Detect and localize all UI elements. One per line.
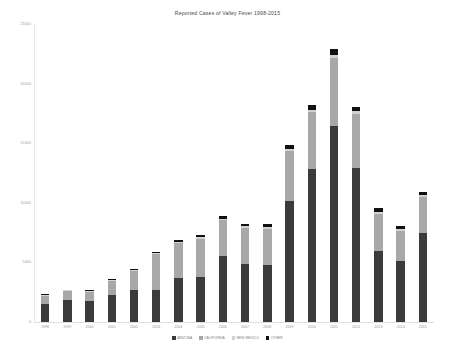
bar-segment[interactable] xyxy=(352,114,361,168)
bar-stack[interactable] xyxy=(196,235,205,322)
x-axis-ticks: 1998199920002001200220032004200520062007… xyxy=(34,323,434,335)
x-axis-tick-label: 2014 xyxy=(397,325,405,329)
bar-stack[interactable] xyxy=(308,105,317,322)
x-axis-tick-label: 2009 xyxy=(286,325,294,329)
legend-item-label: OTHER xyxy=(271,336,283,340)
bar-segment[interactable] xyxy=(152,290,161,322)
legend-swatch-icon xyxy=(199,336,202,339)
y-axis-tick-label: 5000 xyxy=(23,260,34,264)
y-axis-tick-label: 10000 xyxy=(21,201,35,205)
x-axis-tick-label: 2013 xyxy=(374,325,382,329)
bar-segment[interactable] xyxy=(108,281,117,295)
bar-stack[interactable] xyxy=(330,49,339,322)
x-axis-tick-label: 2008 xyxy=(263,325,271,329)
x-axis-tick-label: 2001 xyxy=(108,325,116,329)
x-axis-tick-label: 2010 xyxy=(308,325,316,329)
bar-stack[interactable] xyxy=(174,240,183,322)
bar-segment[interactable] xyxy=(196,277,205,323)
x-axis-tick-label: 2005 xyxy=(197,325,205,329)
bar-stack[interactable] xyxy=(108,279,117,322)
legend-item[interactable]: ARIZONA xyxy=(172,336,192,340)
bar-stack[interactable] xyxy=(396,226,405,322)
chart-title: Reported Cases of Valley Fever 1998-2015 xyxy=(0,10,455,16)
bar-segment[interactable] xyxy=(241,264,250,322)
chart-container: Reported Cases of Valley Fever 1998-2015… xyxy=(0,0,455,352)
bar-stack[interactable] xyxy=(41,294,50,322)
bar-stack[interactable] xyxy=(241,224,250,322)
bar-segment[interactable] xyxy=(352,168,361,322)
x-axis-tick-label: 1998 xyxy=(41,325,49,329)
bar-segment[interactable] xyxy=(396,231,405,261)
bar-segment[interactable] xyxy=(308,169,317,322)
legend-item[interactable]: OTHER xyxy=(266,336,283,340)
bar-segment[interactable] xyxy=(285,151,294,200)
legend-item-label: CALIFORNIA xyxy=(204,336,225,340)
bar-stack[interactable] xyxy=(130,269,139,322)
y-axis-tick-label: 25000 xyxy=(21,22,35,26)
bar-segment[interactable] xyxy=(130,290,139,322)
legend-item[interactable]: NEW MEXICO xyxy=(232,336,259,340)
x-axis-tick-label: 2015 xyxy=(419,325,427,329)
y-axis-tick-label: 15000 xyxy=(21,141,35,145)
bar-segment[interactable] xyxy=(396,261,405,322)
bar-segment[interactable] xyxy=(85,301,94,322)
bar-segment[interactable] xyxy=(330,126,339,322)
x-axis-tick-label: 2006 xyxy=(219,325,227,329)
bar-stack[interactable] xyxy=(85,290,94,322)
bar-stack[interactable] xyxy=(63,290,72,322)
x-axis-tick-label: 2000 xyxy=(86,325,94,329)
chart-legend: ARIZONACALIFORNIANEW MEXICOOTHER xyxy=(0,336,455,340)
legend-swatch-icon xyxy=(172,336,175,339)
bar-segment[interactable] xyxy=(285,201,294,322)
x-axis-tick-label: 2002 xyxy=(130,325,138,329)
bar-stack[interactable] xyxy=(263,224,272,322)
bar-stack[interactable] xyxy=(352,107,361,323)
bar-segment[interactable] xyxy=(419,233,428,322)
bar-segment[interactable] xyxy=(174,278,183,322)
bar-segment[interactable] xyxy=(219,256,228,322)
legend-item[interactable]: CALIFORNIA xyxy=(199,336,224,340)
bar-segment[interactable] xyxy=(219,220,228,256)
bar-segment[interactable] xyxy=(41,296,50,305)
legend-item-label: ARIZONA xyxy=(177,336,192,340)
bar-segment[interactable] xyxy=(263,229,272,265)
bar-stack[interactable] xyxy=(419,192,428,322)
legend-swatch-icon xyxy=(232,336,235,339)
bar-segment[interactable] xyxy=(63,300,72,322)
x-axis-tick-label: 2011 xyxy=(330,325,338,329)
x-axis-tick-label: 1999 xyxy=(63,325,71,329)
bar-segment[interactable] xyxy=(108,295,117,322)
x-axis-tick-label: 2004 xyxy=(174,325,182,329)
bar-stack[interactable] xyxy=(285,145,294,322)
bar-segment[interactable] xyxy=(374,214,383,251)
bar-segment[interactable] xyxy=(196,239,205,277)
bar-segment[interactable] xyxy=(41,304,50,322)
bar-segment[interactable] xyxy=(374,251,383,322)
bar-segment[interactable] xyxy=(85,292,94,301)
legend-item-label: NEW MEXICO xyxy=(237,336,259,340)
x-axis-tick-label: 2007 xyxy=(241,325,249,329)
x-axis-tick-label: 2003 xyxy=(152,325,160,329)
bar-segment[interactable] xyxy=(130,271,139,290)
bar-stack[interactable] xyxy=(219,216,228,322)
y-axis-tick-label: 20000 xyxy=(21,82,35,86)
bar-stack[interactable] xyxy=(152,252,161,322)
bar-segment[interactable] xyxy=(63,291,72,300)
legend-swatch-icon xyxy=(266,336,269,339)
bar-segment[interactable] xyxy=(241,228,250,264)
bar-segment[interactable] xyxy=(152,254,161,290)
bar-segment[interactable] xyxy=(419,197,428,233)
x-axis-tick-label: 2012 xyxy=(352,325,360,329)
bar-stack[interactable] xyxy=(374,208,383,322)
bar-segment[interactable] xyxy=(308,112,317,169)
bars-layer xyxy=(34,24,434,322)
bar-segment[interactable] xyxy=(263,265,272,322)
bar-segment[interactable] xyxy=(174,243,183,278)
bar-segment[interactable] xyxy=(330,58,339,126)
